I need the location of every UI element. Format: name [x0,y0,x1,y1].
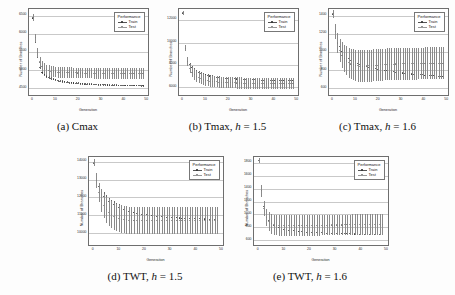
data-point [291,225,292,226]
x-tick-label: 20 [226,98,230,101]
x-tick-label: 0 [92,248,94,251]
data-point [436,63,437,64]
figure-panel-grid: Number of Branches45005000550060006500Pe… [0,0,455,295]
y-tick-label: 6000 [169,85,177,88]
plot-area: PerformanceTrainTest [88,156,224,246]
caption-objective: TWT, [288,270,314,282]
data-point [120,73,121,74]
data-point [176,220,177,221]
plot-d: Number of Branches1000011000120001300014… [63,148,228,268]
data-point [131,220,132,221]
error-bar [201,73,202,84]
test-marker-icon [418,25,427,29]
y-axis-ticks: 600080001000012000 [159,8,177,96]
caption-prefix: (a) [57,120,72,132]
data-point [389,64,390,65]
train-marker-icon [268,20,277,24]
data-point [196,76,197,77]
x-tick-label: 50 [294,98,298,101]
error-bar [351,49,352,79]
legend-label: Test [204,173,211,177]
y-tick-label: 1800 [244,160,252,163]
data-point [362,66,363,67]
y-axis-label: Number of Branches [80,190,84,227]
plot-b: Number of Branches600080001000012000Perf… [153,0,303,118]
legend-label: Test [129,25,136,29]
data-point [187,220,188,221]
plot-e: Number of Branches6008001000120014001600… [228,148,393,268]
x-axis-label: Generation [253,258,389,262]
data-point [93,73,94,74]
error-bar [228,77,229,88]
data-point [84,73,85,74]
plot-area: PerformanceTrainTest [253,156,389,246]
y-tick-label: 14000 [77,159,86,162]
data-point [144,220,145,221]
legend-entry-test: Test [418,25,441,29]
y-axis-ticks: 45005000550060006500 [9,8,27,96]
data-point [185,48,186,49]
data-point [192,220,193,221]
data-point [98,73,99,74]
x-axis-label: Generation [328,108,449,112]
data-point [429,63,430,64]
data-point [124,73,125,74]
data-point [118,73,119,74]
x-axis-ticks: 01020304050 [88,248,224,254]
test-marker-icon [118,25,127,29]
data-point [44,68,45,69]
data-point [202,220,203,221]
caption-objective: Cmax [72,120,98,132]
train-marker-icon [118,20,127,24]
data-point [136,73,137,74]
x-axis-label: Generation [88,258,224,262]
y-tick-label: 600 [246,238,252,241]
plot-c: Number of Branches600800100012001400Perf… [303,0,453,118]
panel-b: Number of Branches600080001000012000Perf… [153,0,303,132]
x-tick-label: 40 [193,248,197,251]
legend-title: Performance [358,163,381,167]
x-axis-ticks: 01020304050 [28,98,149,104]
data-point [296,225,297,226]
x-axis-label: Generation [178,108,299,112]
x-tick-label: 50 [144,98,148,101]
data-point [82,72,83,73]
plot-a: Number of Branches45005000550060006500Pe… [3,0,153,118]
data-point [127,73,128,74]
caption-prefix: (d) [108,270,123,282]
data-point [102,73,103,74]
data-point [427,63,428,64]
data-point [306,225,307,226]
data-point [212,81,213,82]
data-point [62,72,63,73]
data-point [266,217,267,218]
data-point [335,31,336,32]
y-axis-label: Number of Branches [169,42,173,77]
caption-h-value: = 1.5 [157,270,182,282]
y-tick-label: 6000 [19,31,27,34]
data-point [442,63,443,64]
caption-h-value: = 1.6 [322,270,347,282]
legend-title: Performance [193,163,216,167]
data-point [424,63,425,64]
legend: PerformanceTrainTest [414,12,445,32]
legend: PerformanceTrainTest [354,160,385,180]
data-point [80,72,81,73]
data-point [391,64,392,65]
data-point [286,225,287,226]
data-point [154,220,155,221]
legend-label: Test [429,25,436,29]
data-point [393,64,394,65]
plot-area: PerformanceTrainTest [28,8,149,96]
data-point [116,217,117,218]
caption-prefix: (c) [339,120,354,132]
x-axis-ticks: 01020304050 [253,248,389,254]
data-point [324,225,325,226]
error-bar [369,50,370,82]
x-axis-label: Generation [28,108,149,112]
x-tick-label: 0 [257,248,259,251]
x-tick-label: 20 [142,248,146,251]
data-point [139,220,140,221]
train-marker-icon [193,168,202,172]
data-point [344,58,345,59]
